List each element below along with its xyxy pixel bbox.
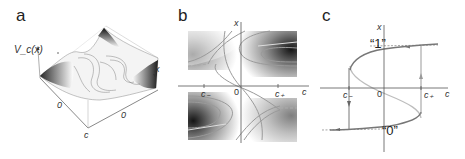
panel-c-x-label: c xyxy=(445,89,450,99)
panel-c-tick-zero: 0 xyxy=(377,89,382,99)
panel-c-y-label: x xyxy=(377,22,382,32)
panel-c-tick-cminus: c₋ xyxy=(343,90,353,100)
panel-a-x-label: x xyxy=(155,64,160,74)
panel-c-tick-cplus: c₊ xyxy=(424,90,434,100)
panel-a-tick-x0: 0 xyxy=(121,110,126,120)
panel-b-y-label: x xyxy=(234,18,239,28)
panel-b-tick-zero: 0 xyxy=(234,87,239,97)
panel-b-tick-cplus: c₊ xyxy=(275,89,285,99)
panel-a-surface xyxy=(38,26,158,128)
panel-a-tick-c0: 0 xyxy=(57,100,62,110)
panel-c-state-high: “1” xyxy=(370,36,386,51)
panel-b-x-label: c xyxy=(302,87,307,97)
panel-a-c-label: c xyxy=(84,130,89,140)
panel-c-state-low: “0” xyxy=(382,123,398,138)
panel-a-z-label: V_c(x) xyxy=(14,44,43,55)
panel-b-tick-cminus: c₋ xyxy=(201,89,211,99)
